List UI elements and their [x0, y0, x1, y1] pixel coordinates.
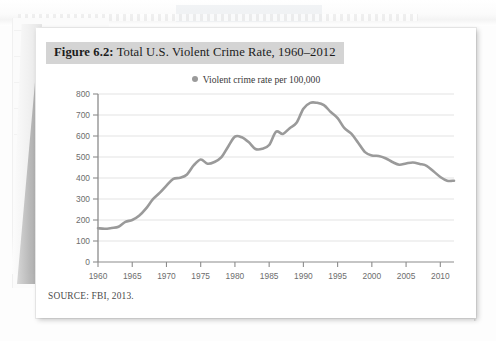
figure-number: Figure 6.2: [54, 45, 114, 59]
x-tick-label: 1985 [260, 271, 279, 281]
figure-card: Figure 6.2: Total U.S. Violent Crime Rat… [36, 28, 476, 318]
chart-y-axis-ticks: 0100200300400500600700800 [76, 90, 98, 267]
y-tick-label: 0 [85, 257, 90, 267]
chart-plot-area: 0100200300400500600700800 19601965197019… [62, 90, 460, 288]
y-tick-label: 800 [76, 90, 90, 99]
legend-label: Violent crime rate per 100,000 [203, 74, 320, 85]
figure-source: SOURCE: FBI, 2013. [48, 291, 134, 301]
x-tick-label: 1960 [89, 271, 108, 281]
x-tick-label: 1965 [123, 271, 142, 281]
x-tick-label: 1995 [328, 271, 347, 281]
y-tick-label: 500 [76, 152, 90, 162]
x-tick-label: 1970 [157, 271, 176, 281]
x-tick-label: 2000 [363, 271, 382, 281]
y-tick-label: 700 [76, 110, 90, 120]
y-tick-label: 600 [76, 131, 90, 141]
x-tick-label: 1990 [294, 271, 313, 281]
y-tick-label: 200 [76, 215, 90, 225]
x-tick-label: 1980 [226, 271, 245, 281]
chart-series-line [98, 102, 454, 229]
figure-page: Figure 6.2: Total U.S. Violent Crime Rat… [0, 0, 496, 341]
legend-marker-icon [192, 76, 198, 82]
x-tick-label: 2005 [397, 271, 416, 281]
chart-legend: Violent crime rate per 100,000 [36, 74, 476, 85]
chart-gridlines [98, 94, 454, 241]
x-tick-label: 1975 [191, 271, 210, 281]
figure-title-text: Total U.S. Violent Crime Rate, 1960–2012 [114, 45, 336, 59]
figure-title: Figure 6.2: Total U.S. Violent Crime Rat… [46, 42, 344, 64]
y-tick-label: 300 [76, 194, 90, 204]
line-chart-svg: 0100200300400500600700800 19601965197019… [62, 90, 460, 288]
x-tick-label: 2010 [431, 271, 450, 281]
y-tick-label: 400 [76, 173, 90, 183]
y-tick-label: 100 [76, 236, 90, 246]
chart-x-axis-ticks: 1960196519701975198019851990199520002005… [89, 262, 450, 281]
